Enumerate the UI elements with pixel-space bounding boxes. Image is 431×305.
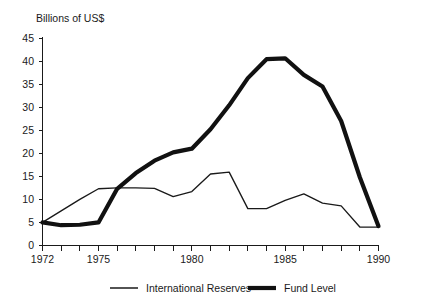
x-tick-label: 1975 xyxy=(87,253,111,265)
y-tick-label: 5 xyxy=(28,216,34,228)
chart-figure: Billions of US$ 051015202530354045 19721… xyxy=(0,0,431,305)
y-tick-label: 40 xyxy=(22,55,34,67)
chart-legend: International ReservesFund Level xyxy=(110,282,336,294)
y-tick-label: 15 xyxy=(22,170,34,182)
x-axis-ticks xyxy=(43,246,379,251)
x-tick-label: 1972 xyxy=(31,253,55,265)
x-tick-label: 1980 xyxy=(180,253,204,265)
legend-label-1: International Reserves xyxy=(146,282,251,294)
line-chart: Billions of US$ 051015202530354045 19721… xyxy=(0,0,431,305)
y-tick-label: 20 xyxy=(22,147,34,159)
legend-label-2: Fund Level xyxy=(284,282,336,294)
series-line-fund-level xyxy=(43,58,379,226)
x-axis-tick-labels: 19721975198019851990 xyxy=(31,253,391,265)
y-tick-label: 0 xyxy=(28,239,34,251)
y-tick-label: 25 xyxy=(22,124,34,136)
y-tick-label: 35 xyxy=(22,78,34,90)
y-axis-title: Billions of US$ xyxy=(36,12,104,24)
x-tick-label: 1990 xyxy=(367,253,391,265)
y-tick-label: 45 xyxy=(22,32,34,44)
y-axis-ticks xyxy=(39,38,43,246)
y-axis-tick-labels: 051015202530354045 xyxy=(22,32,34,252)
series-line-international-reserves xyxy=(43,172,379,227)
x-tick-label: 1985 xyxy=(273,253,297,265)
y-tick-label: 30 xyxy=(22,101,34,113)
y-tick-label: 10 xyxy=(22,193,34,205)
